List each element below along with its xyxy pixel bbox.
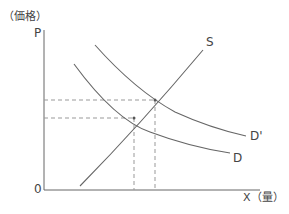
y-axis-title: （価格） [3, 11, 47, 22]
demand-curve-d-prime [95, 45, 246, 136]
curve-label-d: D [233, 152, 242, 164]
supply-curve-s [80, 50, 203, 186]
curve-label-s: S [206, 36, 214, 48]
origin-label: 0 [34, 183, 42, 195]
x-axis-label: X（量） [243, 192, 284, 203]
supply-demand-diagram [0, 0, 289, 214]
curve-label-d-prime: D' [250, 130, 263, 142]
equilibrium-point-d [133, 117, 136, 120]
equilibrium-point-d-prime [154, 99, 157, 102]
y-axis-label: P [34, 27, 41, 39]
